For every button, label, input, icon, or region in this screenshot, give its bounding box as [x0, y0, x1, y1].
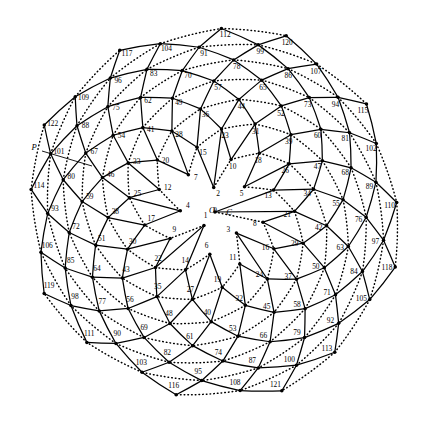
node-label-115: 115: [357, 106, 368, 115]
parastichy-edge-8: [188, 147, 197, 174]
node-label-46: 46: [107, 170, 115, 179]
node-dot-113: [333, 350, 337, 354]
parastichy-edge-21: [338, 97, 366, 104]
parastichy-edge-21: [102, 178, 129, 198]
node-dot-17: [143, 223, 147, 227]
node-label-11: 11: [229, 253, 236, 262]
node-label-76: 76: [355, 215, 363, 224]
node-label-71: 71: [323, 288, 331, 297]
parastichy-edge-8: [47, 154, 50, 214]
node-dot-25: [128, 196, 132, 200]
node-dot-122: [43, 123, 47, 127]
node-dot-79: [303, 336, 307, 340]
parastichy-edge-8: [155, 268, 185, 270]
node-label-100: 100: [284, 355, 295, 364]
node-dot-118: [393, 265, 397, 269]
node-dot-111: [85, 341, 89, 345]
node-dot-53: [236, 334, 240, 338]
node-dot-45: [272, 311, 276, 315]
node-label-55: 55: [332, 199, 340, 208]
node-dot-62: [139, 96, 143, 100]
node-dot-34: [312, 187, 316, 191]
point-c-label: C: [226, 207, 232, 217]
parastichy-edge-8: [305, 268, 324, 309]
node-label-106: 106: [42, 241, 53, 250]
node-label-43: 43: [122, 265, 130, 274]
parastichy-edge-21: [211, 287, 222, 321]
parastichy-edge-8: [157, 160, 159, 189]
node-dot-86: [286, 67, 290, 71]
parastichy-edge-8: [245, 187, 274, 190]
node-label-82: 82: [164, 348, 172, 357]
node-label-29: 29: [291, 239, 299, 248]
node-dot-31: [253, 122, 257, 126]
node-dot-98: [69, 304, 73, 308]
node-dot-22: [154, 266, 158, 270]
node-label-108: 108: [229, 378, 240, 387]
node-dot-64: [91, 275, 95, 279]
node-dot-82: [167, 361, 171, 365]
node-label-77: 77: [99, 297, 107, 306]
node-dot-100: [295, 363, 299, 367]
node-dot-51: [94, 243, 98, 247]
node-label-22: 22: [154, 254, 162, 263]
node-label-1: 1: [204, 211, 208, 220]
node-dot-75: [106, 105, 110, 109]
node-dot-101: [49, 152, 53, 156]
parastichy-edge-21: [128, 163, 159, 190]
node-dot-1: [202, 224, 206, 228]
parastichy-edge-8: [141, 71, 183, 98]
node-label-21: 21: [283, 210, 291, 219]
parastichy-edge-21: [99, 308, 128, 310]
node-dot-97: [382, 238, 386, 242]
node-dot-43: [121, 276, 125, 280]
figure-canvas: 0123456789101112131415161718192021222324…: [0, 0, 446, 435]
parastichy-edge-21: [108, 218, 144, 225]
parastichy-edge-8: [71, 306, 116, 344]
node-dot-93: [46, 212, 50, 216]
node-label-40: 40: [204, 308, 212, 317]
parastichy-edge-21: [197, 109, 200, 147]
node-label-17: 17: [148, 214, 156, 223]
node-label-37: 37: [284, 272, 292, 281]
node-dot-89: [374, 180, 378, 184]
node-dot-66: [268, 340, 272, 344]
node-label-62: 62: [144, 96, 152, 105]
node-label-32: 32: [235, 294, 243, 303]
node-label-80: 80: [68, 172, 76, 181]
node-label-78: 78: [233, 62, 241, 71]
parastichy-edge-21: [270, 312, 274, 341]
node-dot-13: [272, 188, 276, 192]
parastichy-edge-8: [274, 190, 295, 211]
node-label-117: 117: [122, 49, 133, 58]
parastichy-edge-13: [122, 278, 128, 308]
parastichy-edge-21: [92, 277, 122, 278]
node-dot-63: [347, 245, 351, 249]
node-label-59: 59: [86, 192, 94, 201]
node-dot-77: [97, 309, 101, 313]
node-label-15: 15: [199, 148, 207, 157]
node-dot-12: [158, 188, 162, 192]
node-dot-20: [156, 158, 160, 162]
node-dot-114: [29, 188, 32, 192]
parastichy-edge-21: [238, 305, 245, 336]
node-label-57: 57: [214, 83, 222, 92]
node-label-7: 7: [194, 173, 198, 182]
node-dot-6: [208, 252, 212, 256]
node-dot-54: [111, 134, 115, 138]
node-dot-72: [67, 231, 71, 235]
parastichy-edge-8: [75, 50, 120, 96]
node-dot-8: [261, 220, 265, 224]
node-label-72: 72: [72, 222, 80, 231]
node-dot-74: [221, 359, 225, 363]
node-label-33: 33: [133, 157, 141, 166]
parastichy-edge-21: [296, 338, 304, 366]
node-dot-84: [361, 270, 365, 274]
node-label-53: 53: [229, 324, 237, 333]
parastichy-edge-21: [169, 346, 193, 363]
node-dot-95: [200, 379, 204, 383]
node-dot-48: [168, 322, 172, 326]
node-dot-24: [266, 277, 270, 281]
parastichy-edge-13: [258, 365, 296, 368]
parastichy-edge-21: [75, 97, 77, 126]
